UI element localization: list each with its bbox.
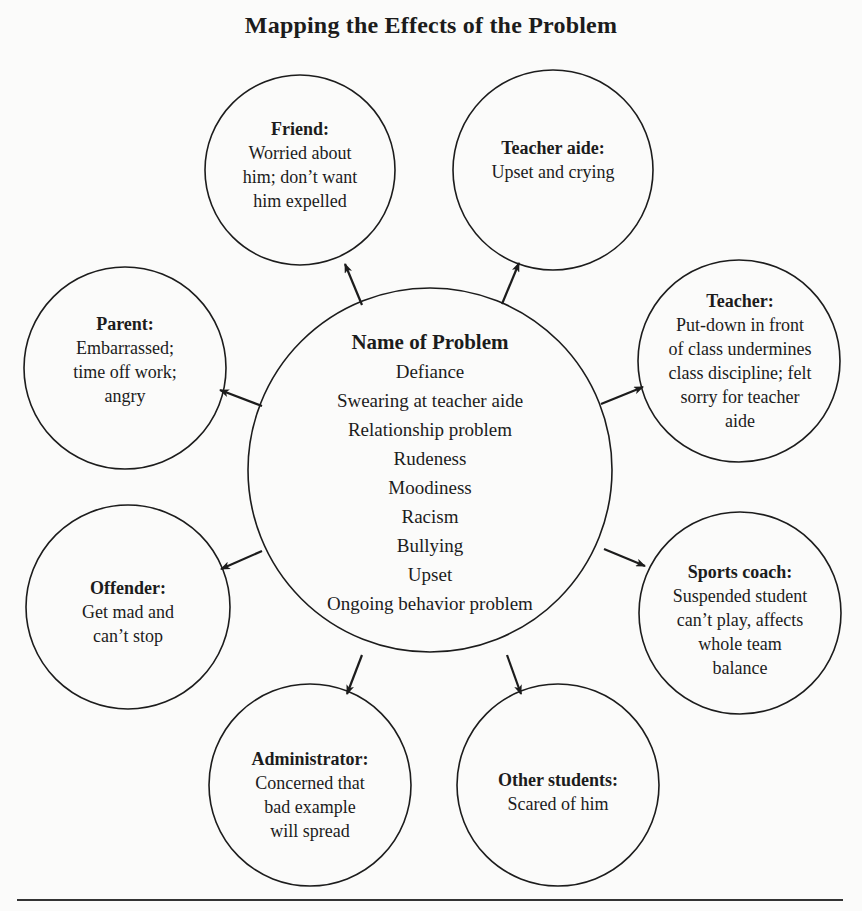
offender-text: Get mad and xyxy=(82,600,174,624)
teacher-label: Teacher: xyxy=(706,289,773,313)
problem-item: Defiance xyxy=(396,357,465,386)
teacher-node: Teacher: Put-down in front of class unde… xyxy=(640,282,840,440)
teacher-aide-text: Upset and crying xyxy=(492,160,615,184)
teacher-text: sorry for teacher xyxy=(681,385,800,409)
friend-text: him; don’t want xyxy=(243,165,358,189)
administrator-label: Administrator: xyxy=(252,747,369,771)
teacher-aide-node: Teacher aide: Upset and crying xyxy=(463,130,643,190)
problem-item: Racism xyxy=(402,502,459,531)
administrator-node: Administrator: Concerned that bad exampl… xyxy=(220,740,400,850)
parent-label: Parent: xyxy=(96,312,154,336)
center-node: Name of Problem Defiance Swearing at tea… xyxy=(270,322,590,622)
sports-coach-label: Sports coach: xyxy=(688,560,793,584)
problem-item: Moodiness xyxy=(388,473,471,502)
sports-coach-text: can’t play, affects xyxy=(677,608,804,632)
teacher-aide-label: Teacher aide: xyxy=(501,136,605,160)
parent-text: time off work; xyxy=(73,360,177,384)
administrator-text: bad example xyxy=(264,795,355,819)
administrator-text: will spread xyxy=(270,819,349,843)
center-label: Name of Problem xyxy=(351,327,508,357)
arrow-to-teacher-aide xyxy=(502,263,519,304)
other-students-text: Scared of him xyxy=(508,792,609,816)
sports-coach-text: whole team xyxy=(698,632,781,656)
offender-label: Offender: xyxy=(90,576,166,600)
teacher-text: of class undermines xyxy=(669,337,812,361)
parent-node: Parent: Embarrassed; time off work; angr… xyxy=(35,305,215,415)
friend-node: Friend: Worried about him; don’t want hi… xyxy=(215,110,385,220)
problem-item: Swearing at teacher aide xyxy=(337,386,523,415)
sports-coach-text: balance xyxy=(713,656,768,680)
problem-item: Upset xyxy=(408,560,452,589)
friend-label: Friend: xyxy=(271,117,329,141)
other-students-label: Other students: xyxy=(498,768,618,792)
problem-item: Bullying xyxy=(397,531,464,560)
bottom-rule xyxy=(17,899,843,901)
arrow-to-other-students xyxy=(507,655,521,694)
offender-text: can’t stop xyxy=(93,624,163,648)
arrow-to-parent xyxy=(220,390,262,406)
problem-item: Rudeness xyxy=(394,444,467,473)
arrow-to-teacher xyxy=(601,387,643,404)
arrow-to-offender xyxy=(221,551,262,569)
teacher-text: class discipline; felt xyxy=(669,361,812,385)
other-students-node: Other students: Scared of him xyxy=(463,762,653,822)
parent-text: angry xyxy=(105,384,146,408)
offender-node: Offender: Get mad and can’t stop xyxy=(38,570,218,654)
arrow-to-friend xyxy=(345,264,362,305)
teacher-text: Put-down in front xyxy=(676,313,804,337)
problem-item: Ongoing behavior problem xyxy=(327,589,533,618)
friend-text: him expelled xyxy=(253,189,346,213)
sports-coach-text: Suspended student xyxy=(673,584,808,608)
arrow-to-sports-coach xyxy=(604,549,645,566)
teacher-text: aide xyxy=(725,409,755,433)
sports-coach-node: Sports coach: Suspended student can’t pl… xyxy=(645,554,835,686)
friend-text: Worried about xyxy=(248,141,351,165)
problem-item: Relationship problem xyxy=(348,415,512,444)
arrow-to-administrator xyxy=(347,655,362,694)
parent-text: Embarrassed; xyxy=(76,336,174,360)
administrator-text: Concerned that xyxy=(255,771,364,795)
